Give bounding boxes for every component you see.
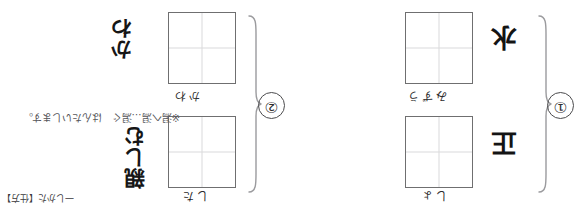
handwritten-answer: かわ <box>112 18 134 60</box>
furigana-label: しょ <box>419 190 447 201</box>
writing-cell[interactable] <box>168 12 236 84</box>
writing-cell[interactable] <box>405 12 473 84</box>
furigana-label: みずう <box>405 90 447 101</box>
kanji-prompt: 水 <box>491 24 517 50</box>
teacher-note-text: ※潟へ潟…潟ぐ はんたいします。 <box>23 112 180 123</box>
group-number-badge: ① <box>547 92 574 119</box>
worksheet-page: 水 みずう 正 しょ ① かわ かわ 親しむ した ② ※潟へ潟…潟ぐ はんたい… <box>0 0 583 213</box>
exercise-group-2: かわ かわ 親しむ した ② <box>100 0 295 213</box>
handwritten-answer: 親しむ <box>125 126 147 189</box>
footer-reference: 一しかた【仕方】 <box>2 192 74 202</box>
group-number-badge: ② <box>258 92 285 119</box>
exercise-group-1: 水 みずう 正 しょ ① <box>395 0 583 213</box>
teacher-note: ※潟へ潟…潟ぐ はんたいします。 <box>8 112 180 123</box>
writing-cell[interactable] <box>405 116 473 188</box>
furigana-label: かわ <box>172 90 200 101</box>
kanji-prompt: 正 <box>491 130 517 156</box>
furigana-label: した <box>180 190 208 201</box>
writing-cell[interactable] <box>168 116 236 188</box>
